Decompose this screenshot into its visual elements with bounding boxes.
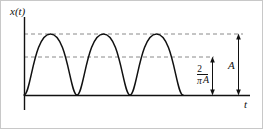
mean-fraction-denominator: π	[197, 76, 202, 86]
mean-dimension-arrow	[210, 57, 215, 96]
amplitude-dimension-arrow	[236, 34, 241, 96]
waveform-plot: x(t) t A 2 π A	[0, 0, 263, 129]
amplitude-label: A	[227, 59, 235, 71]
waveform-figure: x(t) t A 2 π A	[0, 0, 263, 129]
x-axis-label: t	[244, 98, 248, 110]
rectified-sine-curve	[24, 34, 183, 95]
mean-label-amplitude: A	[202, 74, 210, 85]
y-axis-label: x(t)	[9, 5, 26, 18]
mean-fraction-numerator: 2	[197, 64, 202, 74]
